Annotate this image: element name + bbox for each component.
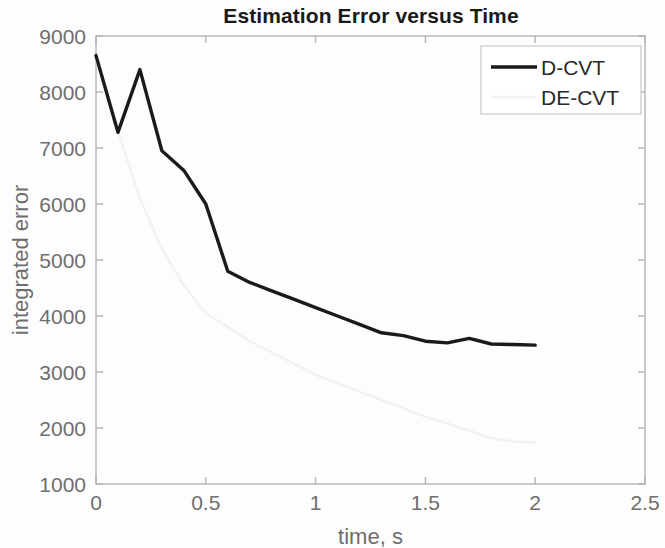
y-tick-label: 9000	[39, 25, 86, 48]
figure-container: Estimation Error versus Time 00.511.522.…	[0, 0, 665, 548]
x-axis-title: time, s	[338, 524, 403, 548]
chart-legend[interactable]: D-CVTDE-CVT	[481, 46, 641, 114]
y-tick-label: 1000	[39, 473, 86, 496]
legend-label-d-cvt[interactable]: D-CVT	[541, 56, 605, 79]
series-line-de-cvt	[96, 58, 535, 442]
x-tick-label: 2.5	[630, 491, 659, 514]
x-tick-label: 0.5	[191, 491, 220, 514]
y-tick-label: 7000	[39, 137, 86, 160]
y-tick-label: 2000	[39, 417, 86, 440]
chart-canvas: 00.511.522.51000200030004000500060007000…	[0, 0, 665, 548]
series-line-d-cvt	[96, 56, 535, 346]
y-tick-label: 8000	[39, 81, 86, 104]
x-tick-label: 2	[529, 491, 541, 514]
x-tick-label: 1.5	[411, 491, 440, 514]
y-tick-label: 4000	[39, 305, 86, 328]
y-axis-title: integrated error	[8, 185, 33, 335]
y-tick-label: 6000	[39, 193, 86, 216]
legend-label-de-cvt[interactable]: DE-CVT	[541, 86, 619, 109]
x-tick-label: 0	[90, 491, 102, 514]
y-tick-label: 3000	[39, 361, 86, 384]
x-tick-label: 1	[310, 491, 322, 514]
data-series	[96, 56, 535, 443]
y-tick-label: 5000	[39, 249, 86, 272]
